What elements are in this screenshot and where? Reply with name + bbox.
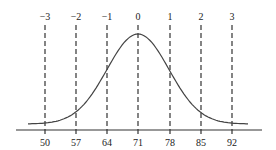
z-score-label: −1 — [102, 11, 113, 22]
z-score-label: 2 — [199, 11, 204, 22]
raw-score-label: 64 — [102, 137, 112, 148]
z-score-dashed-lines — [45, 25, 232, 136]
z-score-label: −2 — [71, 11, 82, 22]
z-score-label: 3 — [230, 11, 235, 22]
z-score-label: −3 — [40, 11, 51, 22]
raw-score-label: 71 — [133, 137, 143, 148]
normal-distribution-figure: −3−2−10123 50576471788592 — [0, 0, 276, 150]
raw-score-label: 57 — [71, 137, 81, 148]
z-score-labels: −3−2−10123 — [40, 11, 235, 22]
z-score-label: 1 — [168, 11, 173, 22]
raw-score-label: 50 — [40, 137, 50, 148]
bell-curve — [28, 34, 248, 124]
z-score-label: 0 — [136, 11, 141, 22]
raw-score-labels: 50576471788592 — [40, 137, 237, 148]
raw-score-label: 85 — [196, 137, 206, 148]
raw-score-label: 78 — [165, 137, 175, 148]
raw-score-label: 92 — [227, 137, 237, 148]
